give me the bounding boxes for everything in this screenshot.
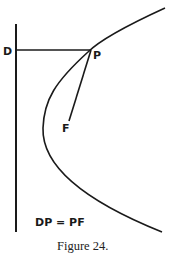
parabola-diagram: D P F DP = PF Figure 24.: [0, 0, 171, 265]
parabola-curve: [43, 8, 165, 232]
label-d: D: [3, 45, 12, 58]
label-f: F: [62, 122, 70, 135]
figure-caption: Figure 24.: [57, 239, 108, 253]
equation-label: DP = PF: [35, 216, 85, 229]
segment-pf: [69, 50, 91, 121]
label-p: P: [93, 49, 101, 62]
